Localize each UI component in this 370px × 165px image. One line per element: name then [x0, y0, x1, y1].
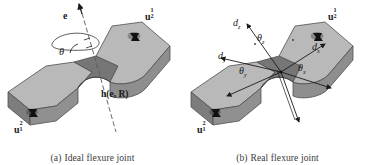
dof-origin-node — [279, 70, 282, 73]
flexure-joint-figure: e θ h(e, R) u12 u21 (a)Ideal flexure joi… — [0, 0, 370, 165]
e-vector-arrow — [79, 4, 82, 14]
label-node-u-1-2-sub: 1 — [203, 126, 206, 132]
label-dx-sub: x — [317, 47, 320, 54]
label-node-u-1-2: u21 — [14, 123, 26, 135]
label-theta-x: θx — [298, 63, 306, 75]
caption-real-flexure-joint: (b)Real flexure joint — [185, 153, 370, 163]
caption-tag-a: (a) — [51, 153, 62, 163]
caption-text-a: Ideal flexure joint — [64, 153, 134, 163]
label-theta-z: θz — [257, 33, 264, 45]
label-dy: dy — [218, 51, 226, 63]
label-dx: dx — [312, 42, 320, 54]
panel-real-flexure-joint: dz θz dx θx dy θy u12 u21 (b) — [185, 0, 370, 165]
ideal-joint-drawing — [0, 0, 185, 142]
label-theta-y-sub: y — [244, 71, 247, 78]
label-e-vector: e — [63, 11, 67, 21]
caption-tag-b: (b) — [236, 153, 247, 163]
label-node-u-2-1: u12 — [145, 10, 157, 22]
label-dy-sub: y — [223, 56, 226, 63]
theta-angle-arc — [70, 44, 78, 53]
label-h-transform: h(e, R) — [101, 90, 128, 100]
label-theta: θ — [59, 47, 64, 58]
real-joint-drawing — [185, 0, 370, 142]
label-node-u-1-2: u21 — [197, 123, 209, 135]
label-theta-x-sub: x — [303, 68, 306, 75]
label-node-u-2-1-sub: 2 — [151, 13, 154, 19]
caption-text-b: Real flexure joint — [251, 153, 319, 163]
label-dz-sub: z — [238, 23, 240, 30]
lower-left-block — [8, 62, 92, 125]
label-node-u-2-1-sub: 2 — [334, 13, 337, 19]
label-node-u-1-2-sub: 1 — [20, 126, 23, 132]
label-theta-z-sub: z — [262, 38, 264, 45]
label-node-u-2-1: u12 — [328, 10, 340, 22]
panel-ideal-flexure-joint: e θ h(e, R) u12 u21 (a)Ideal flexure joi… — [0, 0, 185, 165]
caption-ideal-flexure-joint: (a)Ideal flexure joint — [0, 153, 185, 163]
label-dz: dz — [233, 18, 240, 30]
label-theta-y: θy — [239, 66, 247, 78]
